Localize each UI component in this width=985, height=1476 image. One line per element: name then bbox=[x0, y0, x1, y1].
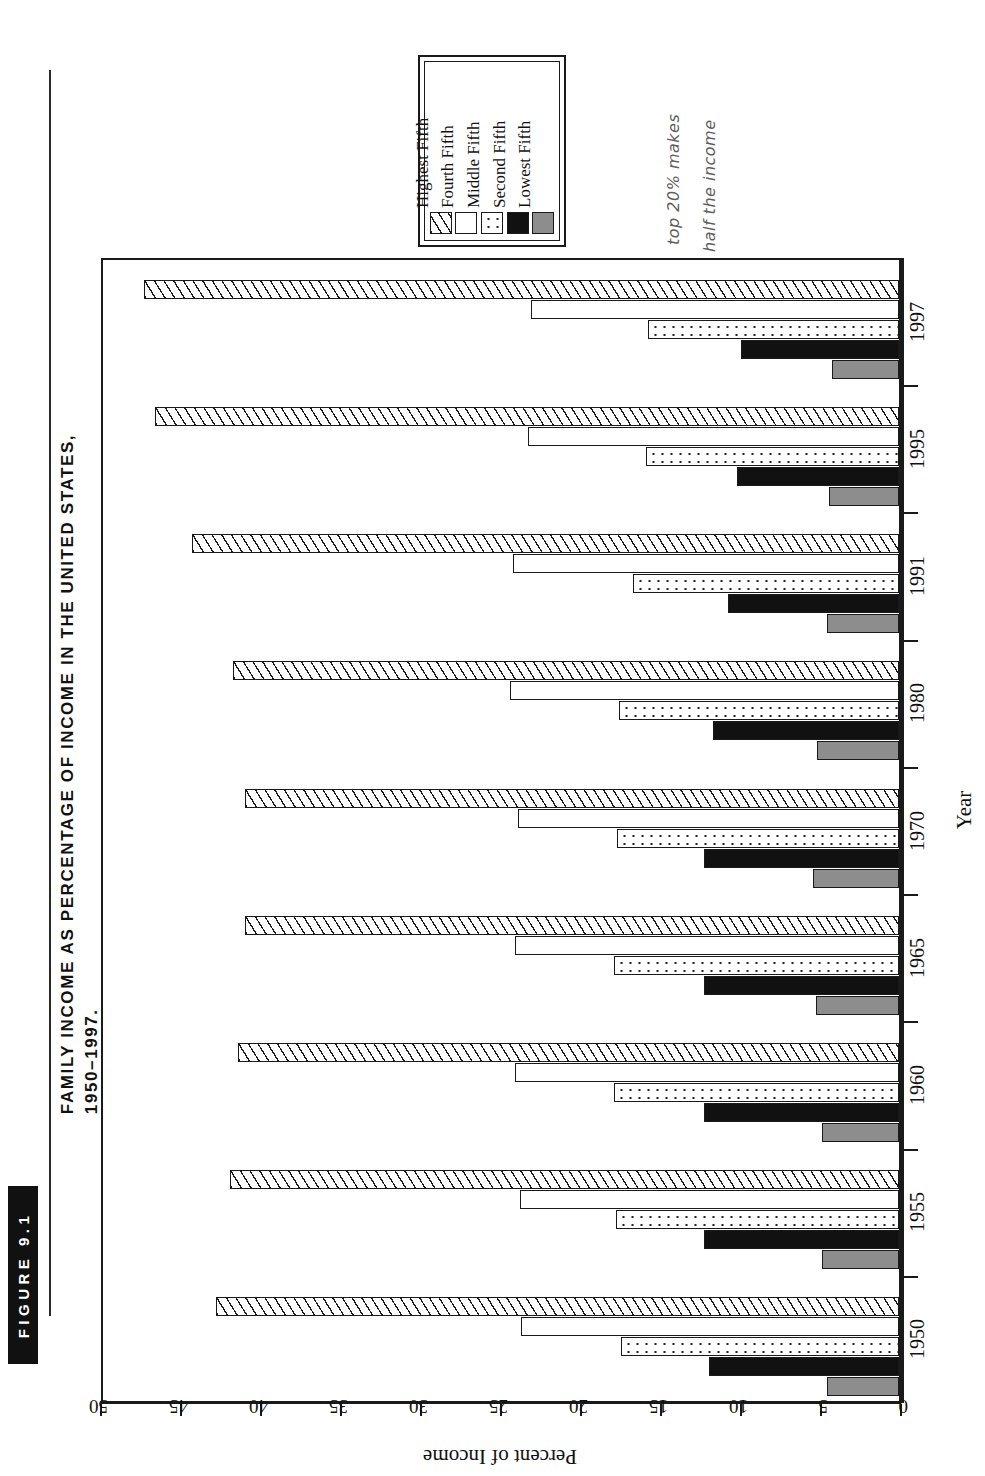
value-axis: 50454035302520151050 bbox=[101, 1401, 901, 1404]
bar bbox=[633, 574, 899, 593]
value-axis-tick-label: 40 bbox=[249, 1395, 268, 1417]
category-axis-tick-label: 1970 bbox=[906, 811, 929, 851]
value-axis-tick-label: 25 bbox=[489, 1395, 508, 1417]
bar bbox=[614, 1083, 899, 1102]
chart-legend: Lowest FifthSecond FifthMiddle FifthFour… bbox=[418, 55, 566, 247]
category-axis-tick bbox=[904, 767, 918, 769]
bar bbox=[829, 487, 899, 506]
legend-item: Second Fifth bbox=[505, 66, 531, 236]
bar bbox=[233, 661, 899, 680]
bar bbox=[704, 1103, 899, 1122]
category-axis-tick bbox=[904, 1149, 918, 1151]
bar bbox=[741, 340, 899, 359]
legend-item: Fourth Fifth bbox=[454, 66, 480, 236]
legend-item-label-wrap: Lowest Fifth bbox=[530, 66, 556, 212]
value-axis-tick-label: 30 bbox=[409, 1395, 428, 1417]
category-axis-tick bbox=[904, 385, 918, 387]
category-axis-tick-label: 1960 bbox=[906, 1065, 929, 1105]
bar bbox=[813, 869, 899, 888]
bar bbox=[822, 1250, 899, 1269]
value-axis-tick-label: 15 bbox=[649, 1395, 668, 1417]
category-axis-tick bbox=[904, 894, 918, 896]
bar bbox=[528, 427, 899, 446]
category-axis-tick bbox=[904, 512, 918, 514]
bar bbox=[510, 681, 899, 700]
legend-item-label-wrap: Highest Fifth bbox=[428, 66, 454, 212]
bar bbox=[617, 829, 899, 848]
value-axis-tick-label: 50 bbox=[89, 1395, 108, 1417]
value-axis-tick-label: 5 bbox=[819, 1395, 829, 1417]
bar-group bbox=[103, 407, 899, 507]
bar bbox=[144, 280, 899, 299]
bar bbox=[619, 701, 899, 720]
bar bbox=[737, 467, 899, 486]
bar bbox=[816, 996, 899, 1015]
figure-badge-label: FIGURE 9.1 bbox=[15, 1212, 32, 1339]
category-axis-tick bbox=[904, 1276, 918, 1278]
handwritten-annotation: top 20% makes half the income bbox=[600, 40, 730, 260]
bar bbox=[245, 916, 899, 935]
bar bbox=[648, 320, 899, 339]
chart-bars-container bbox=[103, 260, 899, 1401]
bar-group bbox=[103, 1170, 899, 1270]
bar bbox=[513, 554, 899, 573]
bar bbox=[709, 1357, 899, 1376]
bar bbox=[614, 956, 899, 975]
bar bbox=[704, 976, 899, 995]
bar bbox=[238, 1043, 899, 1062]
chart-legend-inner: Lowest FifthSecond FifthMiddle FifthFour… bbox=[424, 61, 560, 241]
bar bbox=[531, 300, 899, 319]
value-axis-tick-label: 45 bbox=[169, 1395, 188, 1417]
handwritten-annotation-line-1: top 20% makes bbox=[664, 114, 683, 245]
bar bbox=[817, 741, 899, 760]
legend-item: Highest Fifth bbox=[428, 66, 454, 236]
legend-swatch-white bbox=[455, 212, 477, 234]
bar bbox=[646, 447, 899, 466]
category-axis-tick-label: 1997 bbox=[906, 302, 929, 342]
page-title: FAMILY INCOME AS PERCENTAGE OF INCOME IN… bbox=[56, 114, 104, 1114]
category-axis-tick-label: 1991 bbox=[906, 556, 929, 596]
bar bbox=[827, 614, 899, 633]
page-title-line-1: FAMILY INCOME AS PERCENTAGE OF INCOME IN… bbox=[56, 114, 80, 1114]
legend-item: Middle Fifth bbox=[479, 66, 505, 236]
category-axis-tick-label: 1955 bbox=[906, 1192, 929, 1232]
category-axis-tick-label: 1980 bbox=[906, 683, 929, 723]
category-axis-tick bbox=[904, 1021, 918, 1023]
bar bbox=[827, 1377, 899, 1396]
bar-group bbox=[103, 1043, 899, 1143]
legend-item-label: Highest Fifth bbox=[413, 118, 433, 208]
bar bbox=[713, 721, 899, 740]
handwritten-annotation-line-2: half the income bbox=[700, 119, 719, 252]
bar-group bbox=[103, 661, 899, 761]
bar-group bbox=[103, 280, 899, 380]
title-divider bbox=[49, 70, 51, 1316]
legend-item-label-wrap: Second Fifth bbox=[505, 66, 531, 212]
chart-plot-area bbox=[101, 258, 901, 1403]
bar bbox=[515, 1063, 899, 1082]
bar bbox=[155, 407, 899, 426]
bar bbox=[616, 1210, 899, 1229]
legend-swatch-hatch bbox=[430, 212, 452, 234]
category-axis-title: Year bbox=[952, 791, 977, 830]
category-axis-tick-label: 1995 bbox=[906, 429, 929, 469]
bar bbox=[515, 936, 899, 955]
category-axis bbox=[901, 258, 904, 1403]
legend-item-label-wrap: Fourth Fifth bbox=[454, 66, 480, 212]
bar bbox=[192, 534, 899, 553]
bar bbox=[520, 1190, 899, 1209]
value-axis-title: Percent of Income bbox=[330, 1444, 670, 1469]
bar bbox=[704, 1230, 899, 1249]
value-axis-tick-label: 10 bbox=[729, 1395, 748, 1417]
bar bbox=[216, 1297, 899, 1316]
bar bbox=[704, 849, 899, 868]
bar-group bbox=[103, 1297, 899, 1397]
figure-badge: FIGURE 9.1 bbox=[8, 1186, 38, 1364]
bar bbox=[822, 1123, 899, 1142]
bar-group bbox=[103, 789, 899, 889]
bar bbox=[245, 789, 899, 808]
legend-swatch-dot bbox=[481, 212, 503, 234]
bar bbox=[832, 360, 899, 379]
legend-item: Lowest Fifth bbox=[530, 66, 556, 236]
bar bbox=[230, 1170, 899, 1189]
bar-group bbox=[103, 916, 899, 1016]
